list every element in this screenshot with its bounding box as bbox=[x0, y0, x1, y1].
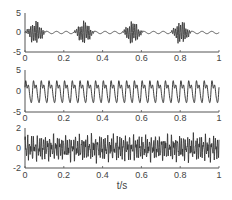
x-axis-label: t/s bbox=[117, 180, 128, 191]
panel-1-ytick: -5 bbox=[13, 47, 21, 57]
panel-1-xtick: 0.8 bbox=[174, 53, 187, 63]
panel-2-xtick: 0 bbox=[22, 113, 27, 123]
panel-3-ytick: 2 bbox=[16, 123, 21, 133]
panel-3-xtick: 0 bbox=[22, 170, 27, 180]
panel-2-xtick: 0.2 bbox=[58, 113, 71, 123]
panel-3-xtick: 0.8 bbox=[174, 170, 187, 180]
panel-2-xtick: 0.4 bbox=[96, 113, 109, 123]
panel-2-signal-line bbox=[25, 81, 219, 103]
panel-2-xtick: 0.8 bbox=[174, 113, 187, 123]
panel-1-signal-line bbox=[25, 21, 219, 44]
panel-2: 5 0 -5 bbox=[13, 65, 219, 117]
panel-1-xtick: 0 bbox=[22, 53, 27, 63]
panel-1-ytick: 0 bbox=[16, 27, 21, 37]
panel-2-ytick: 0 bbox=[16, 86, 21, 96]
panel-3-ytick: 0 bbox=[16, 143, 21, 153]
panel-3-xtick: 0.4 bbox=[96, 170, 109, 180]
panel-1-xtick: 1 bbox=[216, 53, 221, 63]
panel-3-signal-line bbox=[25, 133, 219, 164]
panel-1-xtick: 0.4 bbox=[96, 53, 109, 63]
panel-3-xtick: 0.2 bbox=[58, 170, 71, 180]
panel-3: 2 0 -2 bbox=[13, 123, 219, 173]
panel-1-xtick: 0.2 bbox=[58, 53, 71, 63]
panel-1-ytick: 5 bbox=[16, 8, 21, 18]
panel-1-xtick: 0.6 bbox=[135, 53, 148, 63]
panel-2-ytick: 5 bbox=[16, 65, 21, 75]
panel-3-ytick: -2 bbox=[13, 163, 21, 173]
figure: 5 0 -5 5 0 -5 2 0 -2 0 0.2 0.4 0.6 0.8 1… bbox=[0, 0, 232, 200]
panel-2-ytick: -5 bbox=[13, 107, 21, 117]
panel-2-xtick: 0.6 bbox=[135, 113, 148, 123]
panel-1: 5 0 -5 bbox=[13, 8, 219, 57]
panel-3-xtick: 0.6 bbox=[135, 170, 148, 180]
panel-3-xtick: 1 bbox=[216, 170, 221, 180]
panel-2-xtick: 1 bbox=[216, 113, 221, 123]
